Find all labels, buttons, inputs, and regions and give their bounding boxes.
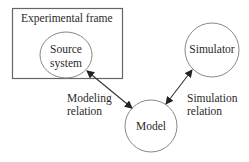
source-system-label-line1: Source: [50, 43, 82, 56]
modeling-relation-label-line1: Modeling: [67, 92, 112, 105]
modeling-relation-label-line2: relation: [67, 105, 102, 118]
simulation-relation-label-line2: relation: [187, 105, 222, 118]
source-system-label-line2: system: [50, 57, 82, 70]
model-label: Model: [136, 120, 166, 133]
simulator-label: Simulator: [189, 43, 234, 56]
experimental-frame-label: Experimental frame: [21, 12, 113, 25]
simulation-relation-label-line1: Simulation: [187, 92, 237, 105]
